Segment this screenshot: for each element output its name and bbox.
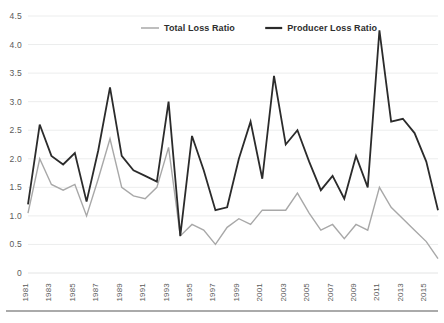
x-axis-tick-label: 2007 [326, 283, 335, 302]
y-axis-tick-label: 0.5 [10, 239, 22, 249]
legend-label-total-loss-ratio: Total Loss Ratio [164, 23, 235, 33]
x-axis-tick-label: 2009 [349, 283, 358, 302]
x-axis-tick-label: 2001 [255, 283, 264, 302]
gridlines-group [28, 16, 438, 273]
loss-ratio-line-chart: 4.54.03.53.02.52.01.51.00.50 19811983198… [0, 0, 444, 323]
x-axis-tick-label: 1987 [91, 283, 100, 302]
y-axis-tick-label: 0 [17, 268, 22, 278]
x-axis-tick-label: 1983 [44, 283, 53, 302]
x-axis-tick-label: 1993 [162, 283, 171, 302]
x-axis-tick-label: 1981 [21, 283, 30, 302]
y-axis-tick-label: 4.5 [10, 11, 22, 21]
x-axis-tick-label: 1997 [208, 283, 217, 302]
x-axis-tick-label: 2005 [302, 283, 311, 302]
chart-canvas: 4.54.03.53.02.52.01.51.00.50 19811983198… [0, 0, 444, 323]
series-line-total-loss-ratio [28, 139, 438, 259]
y-axis-tick-label: 2.0 [10, 154, 22, 164]
x-axis-tick-label: 1985 [68, 283, 77, 302]
x-axis-tick-label: 2011 [372, 283, 381, 301]
y-axis-tick-label: 3.5 [10, 68, 22, 78]
y-axis-tick-label: 4.0 [10, 40, 22, 50]
y-axis-tick-labels: 4.54.03.53.02.52.01.51.00.50 [10, 11, 22, 278]
y-axis-tick-label: 1.5 [10, 182, 22, 192]
x-axis-tick-label: 1989 [115, 283, 124, 302]
series-group [28, 30, 438, 258]
y-axis-tick-label: 1.0 [10, 211, 22, 221]
x-axis-tick-label: 2015 [419, 283, 428, 302]
x-axis-tick-labels: 1981198319851987198919911993199519971999… [21, 283, 428, 302]
x-axis-tick-label: 1991 [138, 283, 147, 302]
x-axis-tick-label: 2003 [279, 283, 288, 302]
legend-label-producer-loss-ratio: Producer Loss Ratio [287, 23, 377, 33]
x-axis-tick-label: 1995 [185, 283, 194, 302]
y-axis-tick-label: 2.5 [10, 125, 22, 135]
y-axis-tick-label: 3.0 [10, 97, 22, 107]
x-axis-tick-label: 1999 [232, 283, 241, 302]
x-axis-tick-label: 2013 [396, 283, 405, 302]
chart-legend: Total Loss RatioProducer Loss Ratio [141, 23, 378, 33]
